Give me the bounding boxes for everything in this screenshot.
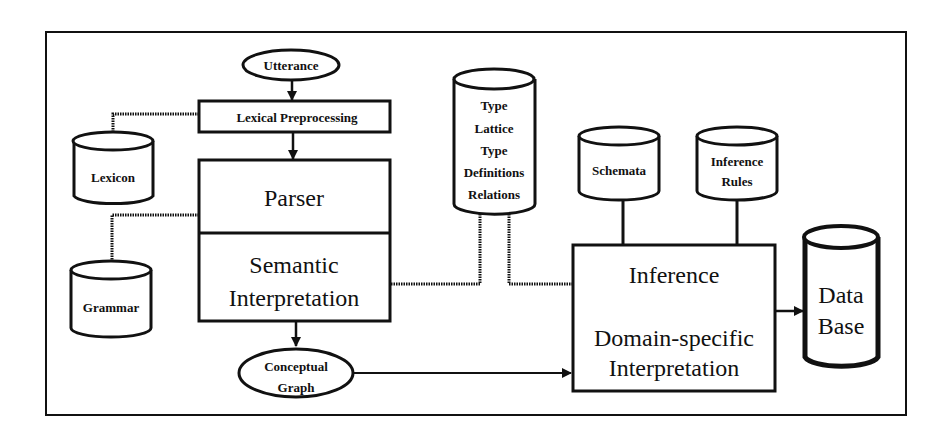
parser-label: Parser	[264, 185, 324, 211]
database-label-line2: Base	[818, 313, 865, 339]
grammar-database-icon: Grammar	[71, 261, 151, 337]
edge-typestore-to-inference	[509, 214, 573, 284]
lexical-preprocessing-node: Lexical Preprocessing	[199, 101, 390, 132]
type-store-line5: Relations	[468, 187, 520, 202]
type-store-line1: Type	[480, 98, 507, 113]
inference-rules-database-icon: Inference Rules	[697, 127, 777, 200]
inference-label-line2: Domain-specific	[594, 325, 754, 351]
semantic-label-line1: Semantic	[249, 252, 338, 278]
schemata-database-icon: Schemata	[579, 127, 659, 200]
conceptual-graph-node: Conceptual Graph	[239, 349, 353, 397]
edge-semantic-to-typestore	[391, 214, 480, 284]
conceptual-graph-line1: Conceptual	[264, 359, 328, 374]
architecture-diagram: Utterance Lexical Preprocessing Lexicon …	[0, 0, 950, 433]
grammar-label: Grammar	[83, 300, 140, 315]
data-base-database-icon: Data Base	[804, 226, 878, 366]
database-label-line1: Data	[818, 282, 864, 308]
lexicon-database-icon: Lexicon	[73, 132, 153, 204]
inference-label-line3: Interpretation	[609, 355, 740, 381]
inference-rules-line1: Inference	[711, 154, 764, 169]
schemata-label: Schemata	[592, 163, 647, 178]
utterance-node: Utterance	[243, 50, 339, 80]
inference-rules-line2: Rules	[721, 174, 752, 189]
parser-semantic-node: Parser Semantic Interpretation	[199, 160, 390, 321]
inference-label-line1: Inference	[629, 262, 720, 288]
type-store-line4: Definitions	[464, 165, 525, 180]
lexicon-label: Lexicon	[91, 170, 136, 185]
semantic-label-line2: Interpretation	[229, 285, 360, 311]
edge-lexicon-to-lexical	[113, 114, 199, 132]
inference-node: Inference Domain-specific Interpretation	[573, 245, 775, 391]
type-lattice-database-icon: Type Lattice Type Definitions Relations	[454, 69, 535, 214]
edge-grammar-to-parser	[112, 215, 199, 262]
lexical-preprocessing-label: Lexical Preprocessing	[236, 110, 358, 125]
type-store-line3: Type	[480, 143, 507, 158]
type-store-line2: Lattice	[475, 121, 514, 136]
utterance-label: Utterance	[264, 58, 319, 73]
conceptual-graph-line2: Graph	[278, 380, 316, 395]
